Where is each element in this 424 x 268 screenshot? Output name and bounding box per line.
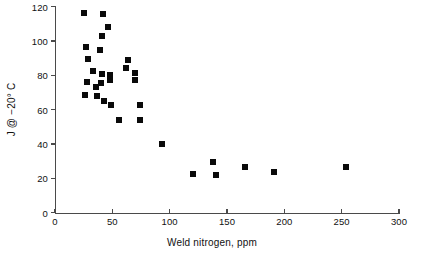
data-point <box>137 102 143 108</box>
data-point <box>101 98 107 104</box>
data-point <box>107 77 113 83</box>
data-point <box>100 11 106 17</box>
data-point <box>271 169 277 175</box>
data-point <box>116 117 122 123</box>
y-tick-label-80: 80 <box>37 70 48 81</box>
chart-figure: 050100150200250300 020406080100120 Weld … <box>0 0 424 268</box>
data-point <box>190 171 196 177</box>
data-point <box>99 71 105 77</box>
data-point <box>83 44 89 50</box>
data-point <box>90 68 96 74</box>
x-axis-label: Weld nitrogen, ppm <box>0 237 424 248</box>
x-tick-label-300: 300 <box>391 216 407 227</box>
y-tick-label-20: 20 <box>37 173 48 184</box>
data-point <box>137 117 143 123</box>
data-point <box>132 77 138 83</box>
data-point <box>81 10 87 16</box>
data-point <box>242 164 248 170</box>
data-point <box>132 70 138 76</box>
y-axis-label: J @ −20° C <box>6 55 17 165</box>
y-tick-label-40: 40 <box>37 138 48 149</box>
plot-area <box>55 7 399 213</box>
data-point <box>99 33 105 39</box>
data-point <box>343 164 349 170</box>
data-point <box>94 93 100 99</box>
x-tick-label-50: 50 <box>107 216 118 227</box>
data-point <box>85 56 91 62</box>
x-tick-label-200: 200 <box>276 216 292 227</box>
y-tick-label-0: 0 <box>43 207 48 218</box>
data-point <box>210 159 216 165</box>
data-point <box>159 141 165 147</box>
data-point <box>213 172 219 178</box>
data-point <box>108 102 114 108</box>
data-point <box>93 84 99 90</box>
x-tick-label-100: 100 <box>162 216 178 227</box>
x-tick-label-0: 0 <box>52 216 57 227</box>
data-point <box>84 79 90 85</box>
data-point <box>97 47 103 53</box>
data-point <box>123 65 129 71</box>
x-tick-label-150: 150 <box>219 216 235 227</box>
y-tick-label-60: 60 <box>37 104 48 115</box>
x-tick-label-250: 250 <box>334 216 350 227</box>
data-point <box>105 24 111 30</box>
data-point <box>82 92 88 98</box>
y-tick-label-100: 100 <box>32 36 48 47</box>
data-point <box>125 57 131 63</box>
y-tick-label-120: 120 <box>32 1 48 12</box>
